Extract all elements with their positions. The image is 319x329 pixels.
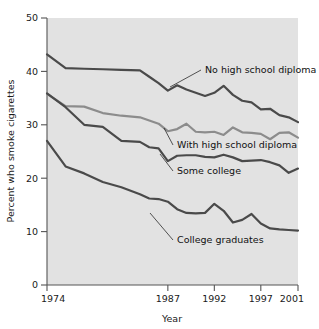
x-tick-label: 1987 [156, 293, 180, 304]
y-tick-label: 50 [26, 12, 38, 23]
x-tick-label: 1997 [249, 293, 273, 304]
x-axis-title: Year [161, 313, 182, 324]
chart-figure: 01020304050 19741987199219972001 No high… [0, 0, 319, 329]
y-tick-label: 10 [26, 226, 38, 237]
series-label-no-high-school-diploma: No high school diploma [205, 64, 316, 75]
y-tick-label: 0 [32, 279, 38, 290]
x-tick-label: 1974 [41, 293, 65, 304]
y-tick-label: 20 [26, 173, 38, 184]
y-tick-label: 40 [26, 66, 38, 77]
series-label-college-graduates: College graduates [177, 234, 264, 245]
y-axis-ticks: 01020304050 [26, 12, 47, 290]
x-tick-label: 1992 [202, 293, 226, 304]
y-tick-label: 30 [26, 119, 38, 130]
x-axis-ticks: 19741987199219972001 [41, 285, 304, 304]
y-axis-title: Percent who smoke cigarettes [5, 79, 16, 222]
series-label-with-high-school-diploma: With high school diploma [177, 139, 297, 150]
series-label-some-college: Some college [177, 165, 241, 176]
x-tick-label: 2001 [280, 293, 304, 304]
line-chart: 01020304050 19741987199219972001 No high… [0, 0, 319, 329]
